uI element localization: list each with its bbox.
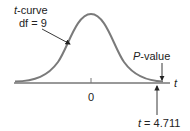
df-label: df = 9 xyxy=(19,17,47,29)
zero-tick-label: 0 xyxy=(88,91,94,103)
t-distribution-diagram: t-curve df = 9 t 0 P-value t = 4.711 xyxy=(0,0,190,131)
curve-label-arrow xyxy=(42,29,70,44)
diagram-canvas: t-curve df = 9 t 0 P-value t = 4.711 xyxy=(0,0,190,131)
axis-variable-label: t xyxy=(174,77,178,89)
curve-label: t-curve xyxy=(14,4,48,16)
tstat-label: t = 4.711 xyxy=(138,117,180,129)
pvalue-label: P-value xyxy=(133,50,170,62)
